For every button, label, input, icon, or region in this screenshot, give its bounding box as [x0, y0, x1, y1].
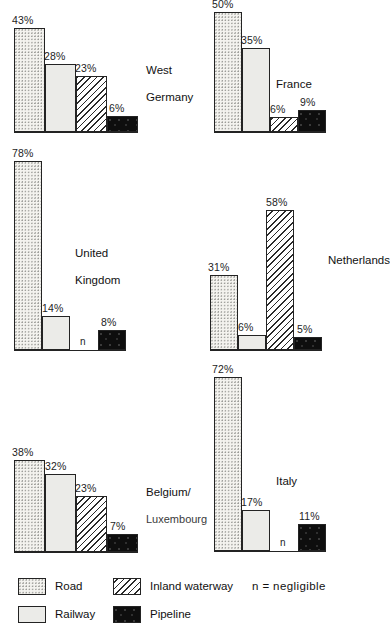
value-netherlands-road: 31%	[208, 262, 230, 273]
value-italy-inland-waterway: n	[280, 538, 286, 548]
value-united-kingdom-inland-waterway: n	[80, 337, 86, 347]
label-united-kingdom-line1: United	[75, 247, 108, 259]
legend-swatch-railway-icon	[18, 606, 46, 623]
value-belgium-luxembourg-pipeline: 7%	[110, 521, 126, 532]
bar-group-france: 50% 35% 6% 9% France	[214, 12, 359, 133]
value-france-road: 50%	[212, 0, 234, 10]
bar-netherlands-railway	[238, 335, 266, 350]
label-france: France	[276, 64, 312, 91]
legend-item-road: Road	[18, 578, 83, 595]
label-belgium-luxembourg: Belgium/ Luxembourg	[146, 472, 207, 526]
value-united-kingdom-pipeline: 8%	[101, 317, 117, 328]
bar-group-united-kingdom: 78% 14% n 8% United Kingdom	[14, 161, 174, 351]
legend-item-pipeline: Pipeline	[113, 606, 191, 623]
value-united-kingdom-railway: 14%	[42, 303, 64, 314]
value-france-pipeline: 9%	[300, 97, 316, 108]
bar-belgium-luxembourg-railway	[45, 474, 76, 552]
value-italy-pipeline: 11%	[299, 511, 320, 522]
value-italy-road: 72%	[212, 364, 234, 375]
bar-italy-road	[214, 377, 242, 551]
label-west-germany-line1: West	[146, 64, 172, 76]
legend-label-pipeline: Pipeline	[150, 609, 191, 621]
baseline-netherlands	[210, 350, 322, 351]
label-belgium-luxembourg-line2: Luxembourg	[146, 513, 207, 525]
baseline-belgium-luxembourg	[14, 552, 138, 553]
value-belgium-luxembourg-road: 38%	[12, 447, 34, 458]
baseline-west-germany	[14, 132, 138, 133]
bar-france-inland-waterway	[270, 117, 298, 132]
value-west-germany-railway: 28%	[44, 51, 66, 62]
label-west-germany: West Germany	[146, 50, 193, 104]
bar-west-germany-road	[14, 28, 45, 132]
bar-west-germany-pipeline	[107, 116, 138, 132]
bar-belgium-luxembourg-inland-waterway	[76, 496, 107, 552]
value-netherlands-railway: 6%	[238, 322, 254, 333]
bar-west-germany-inland-waterway	[76, 76, 107, 132]
value-west-germany-inland-waterway: 23%	[75, 63, 97, 74]
bar-netherlands-pipeline	[294, 337, 322, 350]
label-netherlands: Netherlands	[328, 240, 390, 267]
label-united-kingdom: United Kingdom	[75, 233, 120, 287]
value-west-germany-road: 43%	[12, 15, 34, 26]
value-france-inland-waterway: 6%	[270, 104, 286, 115]
legend-label-road: Road	[55, 581, 83, 593]
value-west-germany-pipeline: 6%	[109, 103, 125, 114]
label-netherlands-line1: Netherlands	[328, 254, 390, 266]
value-belgium-luxembourg-railway: 32%	[45, 461, 67, 472]
label-united-kingdom-line2: Kingdom	[75, 274, 120, 286]
legend-item-railway: Railway	[18, 606, 95, 623]
bar-united-kingdom-pipeline	[98, 330, 126, 350]
value-united-kingdom-road: 78%	[12, 148, 34, 159]
value-belgium-luxembourg-inland-waterway: 23%	[75, 483, 97, 494]
value-netherlands-inland-waterway: 58%	[266, 197, 288, 208]
legend-swatch-pipeline-icon	[113, 606, 141, 623]
chart-legend: Road Railway Inland waterway Pipeline n …	[0, 573, 362, 634]
bar-belgium-luxembourg-road	[14, 460, 45, 552]
bar-belgium-luxembourg-pipeline	[107, 534, 138, 552]
value-france-railway: 35%	[241, 35, 263, 46]
legend-label-inland-waterway: Inland waterway	[150, 581, 233, 593]
legend-item-inland-waterway: Inland waterway	[113, 578, 233, 595]
bar-group-belgium-luxembourg: 38% 32% 23% 7% Belgium/ Luxembourg	[14, 460, 184, 553]
bar-italy-pipeline	[298, 524, 326, 551]
legend-swatch-road-icon	[18, 578, 46, 595]
label-west-germany-line2: Germany	[146, 91, 193, 103]
label-italy-line1: Italy	[276, 475, 297, 487]
bar-italy-railway	[242, 510, 270, 551]
bar-france-pipeline	[298, 110, 326, 132]
value-italy-railway: 17%	[241, 497, 263, 508]
bar-west-germany-railway	[45, 64, 76, 132]
value-netherlands-pipeline: 5%	[297, 324, 313, 335]
legend-swatch-inland-waterway-icon	[113, 578, 141, 595]
label-france-line1: France	[276, 78, 312, 90]
bar-france-road	[214, 12, 242, 132]
bar-group-italy: 72% 17% n 11% Italy	[214, 377, 364, 552]
baseline-france	[214, 132, 326, 133]
baseline-united-kingdom	[14, 350, 126, 351]
label-italy: Italy	[276, 461, 297, 488]
baseline-italy	[214, 551, 326, 552]
bar-france-railway	[242, 48, 270, 132]
legend-note-negligible: n = negligible	[252, 578, 326, 595]
bar-netherlands-inland-waterway	[266, 210, 294, 350]
bar-group-west-germany: 43% 28% 23% 6% West Germany	[14, 28, 174, 133]
label-belgium-luxembourg-line1: Belgium/	[146, 486, 191, 498]
legend-label-railway: Railway	[55, 609, 95, 621]
bar-netherlands-road	[210, 275, 238, 350]
bar-united-kingdom-railway	[42, 316, 70, 350]
bar-united-kingdom-road	[14, 161, 42, 350]
bar-group-netherlands: 31% 6% 58% 5% Netherlands	[210, 210, 360, 351]
